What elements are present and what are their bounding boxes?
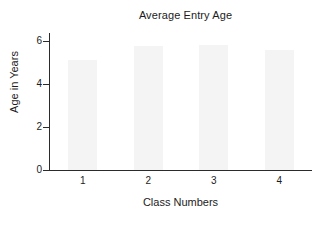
x-tick-label-4: 4: [264, 175, 294, 186]
y-tick-mark-6: [43, 41, 50, 42]
x-tick-label-2: 2: [133, 175, 163, 186]
bar-chart-figure: Average Entry Age Age in Years Class Num…: [0, 0, 327, 225]
y-tick-label-6: 6: [8, 36, 42, 46]
x-tick-label-3: 3: [199, 175, 229, 186]
y-tick-mark-2: [43, 127, 50, 128]
y-tick-mark-0: [43, 170, 50, 171]
y-tick-label-2: 2: [8, 122, 42, 132]
bar-1: [68, 60, 97, 170]
bar-4: [265, 50, 294, 170]
bar-2: [134, 46, 163, 170]
plot-area: [50, 34, 312, 170]
y-tick-label-4: 4: [8, 79, 42, 89]
x-axis-title: Class Numbers: [49, 196, 312, 208]
x-tick-label-1: 1: [68, 175, 98, 186]
chart-title: Average Entry Age: [0, 9, 327, 21]
x-axis-line: [49, 170, 312, 171]
y-tick-label-0: 0: [8, 165, 42, 175]
bar-3: [199, 45, 228, 170]
y-tick-mark-4: [43, 84, 50, 85]
